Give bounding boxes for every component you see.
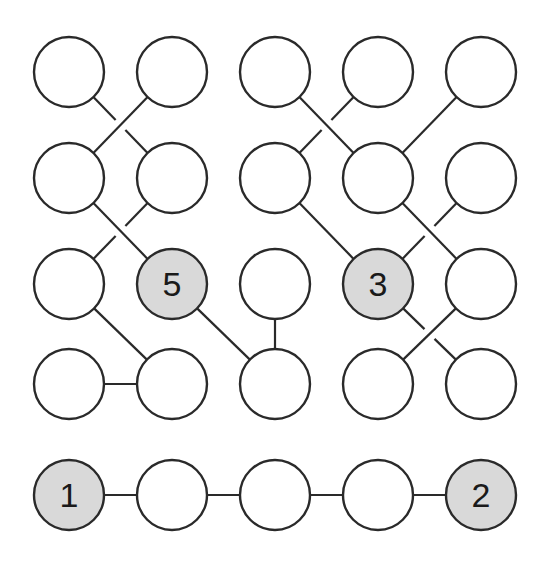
node-circle[interactable] <box>34 249 104 319</box>
node-circle[interactable] <box>446 37 516 107</box>
node-circle[interactable] <box>34 143 104 213</box>
node-circle[interactable] <box>240 349 310 419</box>
node-circle[interactable] <box>240 143 310 213</box>
given-node[interactable]: 1 <box>34 460 104 530</box>
edge-line <box>125 203 147 226</box>
edge-line <box>93 236 115 259</box>
node-label: 5 <box>163 265 182 303</box>
node-circle[interactable] <box>343 143 413 213</box>
node-circle[interactable] <box>446 249 516 319</box>
empty-node[interactable] <box>446 249 516 319</box>
node-circle[interactable] <box>343 460 413 530</box>
node-circle[interactable] <box>137 460 207 530</box>
node-circle[interactable] <box>137 349 207 419</box>
empty-node[interactable] <box>446 143 516 213</box>
empty-node[interactable] <box>446 37 516 107</box>
edge-line <box>434 203 456 226</box>
empty-node[interactable] <box>446 349 516 419</box>
empty-node[interactable] <box>343 349 413 419</box>
empty-node[interactable] <box>343 37 413 107</box>
node-label: 1 <box>60 476 79 514</box>
node-circle[interactable] <box>446 349 516 419</box>
edge-line <box>402 97 456 153</box>
node-circle[interactable] <box>240 249 310 319</box>
node-circle[interactable] <box>240 37 310 107</box>
edge-line <box>197 308 250 359</box>
empty-node[interactable] <box>240 249 310 319</box>
edge-line <box>94 308 147 359</box>
empty-node[interactable] <box>343 460 413 530</box>
node-circle[interactable] <box>137 37 207 107</box>
empty-node[interactable] <box>240 143 310 213</box>
empty-node[interactable] <box>137 37 207 107</box>
node-circle[interactable] <box>343 37 413 107</box>
empty-node[interactable] <box>34 349 104 419</box>
given-node[interactable]: 5 <box>137 249 207 319</box>
edge-line <box>125 130 147 153</box>
empty-node[interactable] <box>137 349 207 419</box>
empty-node[interactable] <box>137 460 207 530</box>
edge-line <box>299 130 321 153</box>
edge-line <box>403 308 424 329</box>
empty-node[interactable] <box>34 37 104 107</box>
puzzle-diagram: 5312 <box>0 0 555 572</box>
node-circle[interactable] <box>34 37 104 107</box>
node-circle[interactable] <box>137 143 207 213</box>
edge-line <box>331 97 353 120</box>
puzzle-board: 5312 <box>0 0 555 572</box>
empty-node[interactable] <box>137 143 207 213</box>
empty-node[interactable] <box>240 37 310 107</box>
empty-node[interactable] <box>240 460 310 530</box>
node-circle[interactable] <box>240 460 310 530</box>
node-label: 2 <box>472 476 491 514</box>
edge-line <box>93 97 115 120</box>
given-node[interactable]: 2 <box>446 460 516 530</box>
edge-line <box>299 203 353 259</box>
empty-node[interactable] <box>240 349 310 419</box>
edge-line <box>402 236 424 259</box>
node-circle[interactable] <box>34 349 104 419</box>
empty-node[interactable] <box>34 249 104 319</box>
node-circle[interactable] <box>446 143 516 213</box>
node-circle[interactable] <box>343 349 413 419</box>
node-label: 3 <box>369 265 388 303</box>
edge-line <box>435 339 456 360</box>
empty-node[interactable] <box>343 143 413 213</box>
given-node[interactable]: 3 <box>343 249 413 319</box>
empty-node[interactable] <box>34 143 104 213</box>
